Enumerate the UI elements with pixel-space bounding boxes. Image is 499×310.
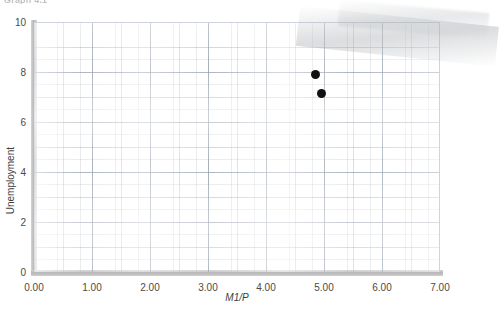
grid-mid bbox=[34, 22, 440, 272]
grid-wash bbox=[34, 22, 440, 272]
grid-minor bbox=[34, 22, 440, 272]
y-tick-label: 6 bbox=[20, 117, 26, 128]
y-tick-label: 0 bbox=[20, 267, 26, 278]
y-tick-label: 8 bbox=[20, 67, 26, 78]
y-tick-label: 2 bbox=[20, 217, 26, 228]
y-tick-label: 10 bbox=[15, 17, 26, 28]
plot-border bbox=[34, 22, 440, 272]
data-point bbox=[317, 89, 326, 98]
grid-major bbox=[34, 22, 440, 272]
figure-caption: Graph 4.1 bbox=[4, 0, 47, 4]
plot-area: 0246810 0.001.002.003.004.005.006.007.00 bbox=[34, 22, 440, 272]
y-tick-label: 4 bbox=[20, 167, 26, 178]
data-point bbox=[311, 70, 320, 79]
y-axis-label: Unemployment bbox=[5, 147, 16, 214]
x-axis-label: M1/P bbox=[34, 292, 440, 303]
